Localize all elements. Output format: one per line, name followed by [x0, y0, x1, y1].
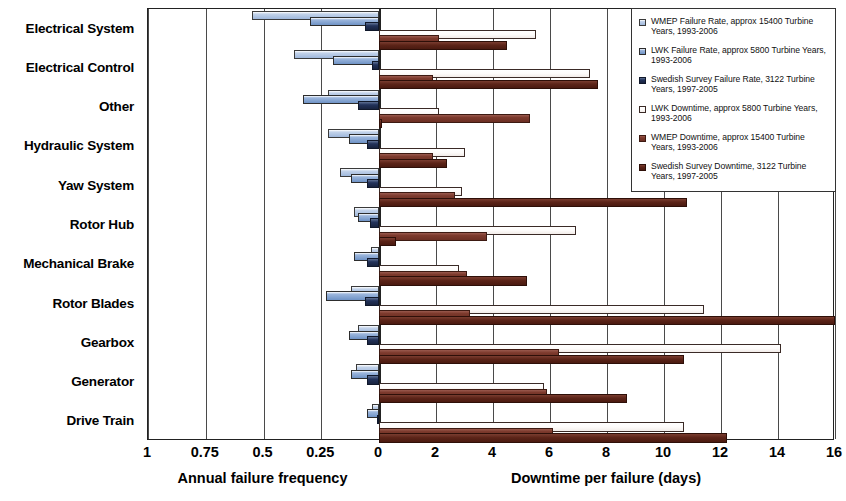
bar [367, 375, 379, 384]
left-axis-title: Annual failure frequency [177, 470, 347, 486]
category-label: Rotor Blades [52, 295, 134, 310]
legend-swatch-icon [639, 164, 646, 171]
category-label: Electrical System [26, 20, 134, 35]
legend-swatch-icon [639, 48, 646, 55]
right-axis-tick-label: 8 [602, 444, 610, 460]
legend-swatch-icon [639, 106, 646, 113]
chart-legend: WMEP Failure Rate, approx 15400 Turbine … [631, 8, 836, 192]
legend-item: LWK Failure Rate, approx 5800 Turbine Ye… [639, 45, 829, 66]
bar [358, 101, 379, 110]
legend-swatch-icon [639, 135, 646, 142]
left-axis-tick-label: 0.5 [252, 444, 272, 460]
bar [367, 179, 379, 188]
bar [370, 218, 379, 227]
legend-label: Swedish Survey Failure Rate, 3122 Turbin… [651, 74, 829, 95]
legend-item: LWK Downtime, approx 5800 Turbine Years,… [639, 103, 829, 124]
wind-turbine-reliability-chart: Electrical SystemElectrical ControlOther… [0, 0, 846, 501]
category-bar-group [148, 245, 833, 284]
legend-label: WMEP Failure Rate, approx 15400 Turbine … [651, 16, 829, 37]
legend-item: Swedish Survey Downtime, 3122 Turbine Ye… [639, 161, 829, 182]
legend-item: WMEP Failure Rate, approx 15400 Turbine … [639, 16, 829, 37]
bar [367, 336, 379, 345]
category-bar-group [148, 362, 833, 401]
category-bar-group [148, 205, 833, 244]
legend-swatch-icon [639, 19, 646, 26]
right-axis-tick-label: 2 [431, 444, 439, 460]
category-bar-group [148, 402, 833, 441]
bar [372, 61, 379, 70]
legend-item: Swedish Survey Failure Rate, 3122 Turbin… [639, 74, 829, 95]
category-label: Gearbox [81, 334, 134, 349]
legend-label: WMEP Downtime, approx 15400 Turbine Year… [651, 132, 829, 153]
bar [367, 258, 379, 267]
category-label: Electrical Control [26, 59, 134, 74]
right-axis-tick-label: 14 [769, 444, 785, 460]
right-axis-tick-label: 16 [826, 444, 842, 460]
right-axis-tick-label: 4 [488, 444, 496, 460]
left-axis-tick-label: 1 [143, 444, 151, 460]
left-axis-tick-label: 0 [374, 444, 382, 460]
right-axis-tick-label: 10 [655, 444, 671, 460]
category-label: Drive Train [66, 413, 134, 428]
category-axis-labels: Electrical SystemElectrical ControlOther… [0, 8, 140, 440]
right-axis-tick-label: 12 [712, 444, 728, 460]
legend-swatch-icon [639, 77, 646, 84]
category-bar-group [148, 323, 833, 362]
value-axis-ticks: 10.750.50.250246810121416 [0, 444, 846, 464]
category-label: Generator [71, 374, 134, 389]
legend-item: WMEP Downtime, approx 15400 Turbine Year… [639, 132, 829, 153]
category-label: Other [99, 99, 134, 114]
category-label: Mechanical Brake [23, 256, 134, 271]
bar [365, 22, 379, 31]
bar [379, 433, 727, 442]
bar [367, 140, 379, 149]
left-axis-tick-label: 0.25 [306, 444, 334, 460]
bar [379, 114, 530, 123]
category-label: Hydraulic System [24, 138, 134, 153]
legend-label: Swedish Survey Downtime, 3122 Turbine Ye… [651, 161, 829, 182]
category-bar-group [148, 284, 833, 323]
category-label: Yaw System [58, 177, 134, 192]
right-axis-tick-label: 6 [545, 444, 553, 460]
left-axis-tick-label: 0.75 [191, 444, 219, 460]
right-axis-title: Downtime per failure (days) [511, 470, 701, 486]
bar [365, 297, 379, 306]
category-label: Rotor Hub [70, 217, 134, 232]
legend-label: LWK Failure Rate, approx 5800 Turbine Ye… [651, 45, 829, 66]
legend-label: LWK Downtime, approx 5800 Turbine Years,… [651, 103, 829, 124]
